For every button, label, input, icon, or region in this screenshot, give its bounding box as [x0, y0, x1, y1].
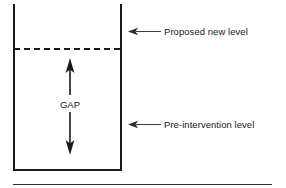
label-gap: GAP — [56, 99, 84, 110]
gap-analysis-diagram: Proposed new level Pre-intervention leve… — [0, 0, 286, 188]
gap-arrow-down — [66, 112, 75, 155]
label-pre-intervention-level: Pre-intervention level — [164, 119, 254, 130]
callout-arrow-proposed — [128, 28, 161, 35]
label-proposed-new-level: Proposed new level — [164, 26, 248, 37]
callout-arrow-pre-intervention — [128, 121, 161, 128]
gap-arrow-up — [66, 58, 75, 95]
vessel-box — [13, 4, 121, 171]
